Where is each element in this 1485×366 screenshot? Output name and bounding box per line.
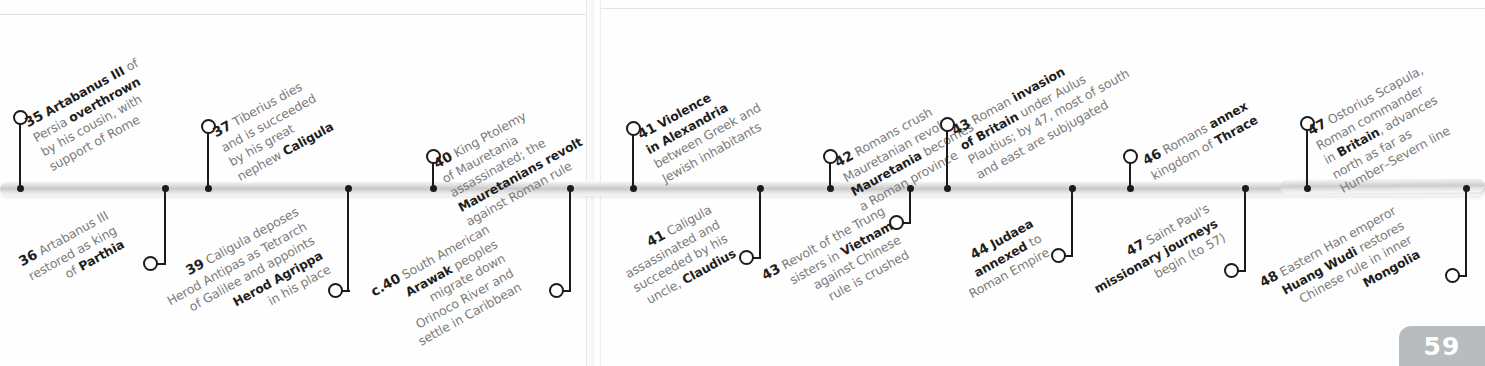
leader-line bbox=[207, 133, 209, 188]
event-marker-ring[interactable] bbox=[739, 250, 754, 265]
page-number: 59 bbox=[1424, 332, 1461, 361]
leader-elbow bbox=[157, 263, 166, 265]
timeline-bar-wave bbox=[1280, 178, 1485, 194]
leader-line bbox=[946, 131, 948, 188]
leader-elbow bbox=[1065, 255, 1073, 257]
leader-line bbox=[432, 163, 434, 188]
leader-elbow bbox=[903, 222, 911, 224]
leader-line bbox=[909, 190, 911, 222]
leader-line bbox=[1306, 130, 1308, 188]
leader-line bbox=[632, 135, 634, 188]
leader-line bbox=[1465, 190, 1467, 275]
event-marker-ring[interactable] bbox=[1051, 248, 1066, 263]
leader-elbow bbox=[1459, 275, 1467, 277]
event-marker-ring[interactable] bbox=[328, 283, 343, 298]
leader-line bbox=[19, 123, 21, 188]
event-marker-ring[interactable] bbox=[1123, 149, 1138, 164]
leader-line bbox=[1129, 163, 1131, 188]
timeline-page: 35 Artabanus III of Persia overthrown by… bbox=[0, 0, 1485, 366]
event-marker-ring[interactable] bbox=[143, 256, 158, 271]
leader-line bbox=[829, 163, 831, 188]
leader-line bbox=[759, 190, 761, 257]
page-top-rule-left bbox=[0, 14, 586, 15]
leader-elbow bbox=[563, 290, 571, 292]
timeline-bar bbox=[0, 182, 1485, 196]
event-marker-ring[interactable] bbox=[1445, 268, 1460, 283]
leader-line bbox=[1071, 190, 1073, 255]
leader-elbow bbox=[342, 290, 350, 292]
leader-line bbox=[164, 190, 166, 264]
leader-elbow bbox=[753, 257, 761, 259]
event-marker-ring[interactable] bbox=[1224, 263, 1239, 278]
leader-line bbox=[347, 190, 349, 290]
event-marker-ring[interactable] bbox=[549, 283, 564, 298]
leader-line bbox=[569, 190, 571, 290]
leader-line bbox=[1244, 190, 1246, 270]
leader-elbow bbox=[1238, 270, 1246, 272]
page-top-rule-right bbox=[600, 8, 1485, 9]
page-number-badge: 59 bbox=[1399, 326, 1485, 366]
